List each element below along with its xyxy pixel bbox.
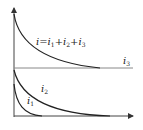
i2-curve xyxy=(14,70,110,116)
equation-label: i=i1+i2+i3 xyxy=(36,36,86,48)
i2-label: i2 xyxy=(41,83,48,95)
i3-label: i3 xyxy=(123,55,130,67)
current-decomposition-diagram: i=i1+i2+i3 i3 i2 i1 xyxy=(0,0,143,130)
